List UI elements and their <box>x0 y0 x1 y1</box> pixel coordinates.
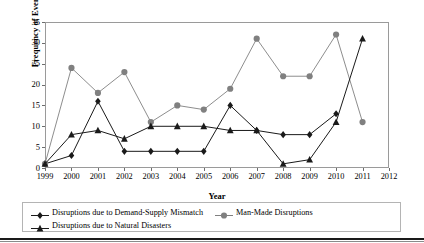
series-line <box>45 39 363 164</box>
circle-marker <box>307 73 313 79</box>
diamond-marker <box>69 152 75 159</box>
series-1 <box>42 31 366 167</box>
circle-marker <box>359 119 365 125</box>
diamond-marker <box>280 131 286 138</box>
diamond-marker <box>307 131 313 138</box>
legend-item-label: Disruptions due to Demand-Supply Mismatc… <box>52 207 203 218</box>
legend-diamond-icon <box>31 207 49 218</box>
legend-triangle-icon <box>31 220 49 231</box>
circle-marker <box>227 86 233 92</box>
series-line <box>45 35 363 164</box>
circle-marker <box>280 73 286 79</box>
legend-circle-icon <box>215 207 233 218</box>
triangle-marker <box>333 118 340 125</box>
legend-item-label: Disruptions due to Natural Disasters <box>52 220 171 231</box>
circle-marker <box>95 90 101 96</box>
diamond-marker <box>95 98 101 105</box>
circle-marker <box>201 107 207 113</box>
circle-marker <box>333 31 339 37</box>
footer-rule <box>0 238 424 240</box>
chart-figure: Frequency of Events Year 05101520253035 … <box>0 0 424 243</box>
chart-legend: Disruptions due to Demand-Supply Mismatc… <box>22 202 401 232</box>
diamond-marker <box>174 148 180 155</box>
legend-item[interactable]: Man-Made Disruptions <box>215 206 313 219</box>
circle-marker <box>221 212 227 218</box>
circle-marker <box>174 102 180 108</box>
triangle-marker <box>95 127 102 134</box>
triangle-marker <box>359 35 366 42</box>
diamond-marker <box>148 148 154 155</box>
diamond-marker <box>122 148 128 155</box>
footer-rule-secondary <box>0 241 424 242</box>
circle-marker <box>68 65 74 71</box>
series-line <box>45 101 336 164</box>
legend-item[interactable]: Disruptions due to Natural Disasters <box>31 219 171 232</box>
legend-item[interactable]: Disruptions due to Demand-Supply Mismatc… <box>31 206 203 219</box>
circle-marker <box>121 69 127 75</box>
circle-marker <box>254 36 260 42</box>
series-2 <box>42 35 366 167</box>
legend-item-label: Man-Made Disruptions <box>236 207 313 218</box>
